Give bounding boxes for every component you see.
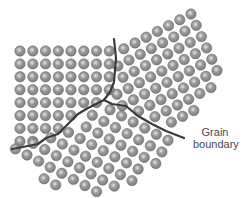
atom [110, 122, 120, 132]
grain-boundary-label: Grain boundary [193, 126, 237, 150]
atom [53, 123, 63, 133]
atom [28, 123, 38, 133]
atom [157, 147, 167, 157]
atom [135, 49, 145, 59]
grains [10, 9, 222, 197]
atom [28, 72, 38, 82]
atom [167, 89, 177, 99]
atom [66, 97, 76, 107]
atom [57, 168, 67, 178]
atom [141, 32, 151, 42]
atom [15, 72, 25, 82]
atom [161, 106, 171, 116]
atom [145, 72, 155, 82]
atom [163, 20, 173, 30]
atom [40, 85, 50, 95]
atom [130, 38, 140, 48]
atom [104, 46, 114, 56]
atom [53, 110, 63, 120]
atom [123, 83, 133, 93]
atom [151, 129, 161, 139]
atom [74, 163, 84, 173]
atom [40, 72, 50, 82]
atom [63, 157, 73, 167]
atom [127, 175, 137, 185]
atom [93, 128, 103, 138]
atom [146, 43, 156, 53]
atom [180, 26, 190, 36]
atom [206, 82, 216, 92]
atom [145, 100, 155, 110]
atom [51, 180, 61, 190]
atom [99, 116, 109, 126]
atom [157, 66, 167, 76]
atom [69, 145, 79, 155]
atom [174, 43, 184, 53]
atom [172, 100, 182, 110]
atom [81, 122, 91, 132]
atom [40, 123, 50, 133]
atom [156, 94, 166, 104]
right-grain [112, 9, 222, 128]
atom [79, 85, 89, 95]
label-line-1: Grain [193, 126, 237, 138]
atom [66, 72, 76, 82]
atom [86, 169, 96, 179]
atom [152, 26, 162, 36]
atom [40, 97, 50, 107]
atom [91, 72, 101, 82]
atom [91, 46, 101, 56]
atom [15, 123, 25, 133]
atom [195, 88, 205, 98]
atom [63, 127, 73, 137]
atom [98, 146, 108, 156]
atom [118, 72, 128, 82]
atom [92, 157, 102, 167]
atom [157, 38, 167, 48]
atom [91, 85, 101, 95]
atom [201, 43, 211, 53]
atom [91, 59, 101, 69]
atom [15, 59, 25, 69]
atom [45, 162, 55, 172]
atom [40, 46, 50, 56]
atom [66, 85, 76, 95]
atom [185, 37, 195, 47]
atom [40, 110, 50, 120]
atom [168, 60, 178, 70]
atom [15, 85, 25, 95]
atom [75, 133, 85, 143]
atom [124, 55, 134, 65]
atom [28, 110, 38, 120]
atom [129, 66, 139, 76]
atom [33, 156, 43, 166]
atom [195, 60, 205, 70]
atom [66, 59, 76, 69]
atom [128, 117, 138, 127]
atom [39, 174, 49, 184]
atom [40, 59, 50, 69]
atom [212, 65, 222, 75]
atom [53, 46, 63, 56]
atom [104, 72, 114, 82]
atom [28, 97, 38, 107]
atom [53, 97, 63, 107]
atom [115, 169, 125, 179]
atom [112, 89, 122, 99]
atom [53, 59, 63, 69]
atom [150, 111, 160, 121]
atom [40, 144, 50, 154]
atom [53, 85, 63, 95]
atom [128, 95, 138, 105]
atom [122, 128, 132, 138]
atom [53, 72, 63, 82]
atom [186, 9, 196, 19]
grain-structure-diagram [0, 0, 245, 198]
atom [22, 150, 32, 160]
atom [109, 181, 119, 191]
atom [57, 139, 67, 149]
atom [15, 46, 25, 56]
atom [91, 186, 101, 196]
atom [151, 55, 161, 65]
atom [28, 85, 38, 95]
